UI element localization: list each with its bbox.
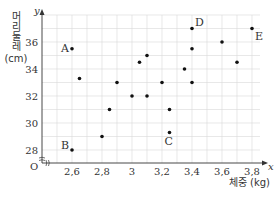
data-point — [160, 81, 164, 85]
y-axis-label-unit: (cm) — [4, 53, 27, 64]
point-label: A — [60, 42, 70, 55]
chart-canvas: 2,62,833,23,43,63,8 2830323436 ABCDE yxO… — [0, 0, 275, 197]
x-tick-label: 3,4 — [184, 166, 200, 177]
data-point — [130, 94, 134, 98]
data-point — [115, 81, 119, 85]
y-tick-label: 30 — [25, 118, 38, 129]
data-point — [168, 131, 172, 135]
y-axis-symbol: y — [33, 5, 40, 16]
x-tick-label: 2,8 — [94, 166, 110, 177]
point-label: B — [61, 139, 69, 152]
data-point — [100, 135, 104, 139]
data-point — [145, 94, 149, 98]
data-point — [250, 27, 254, 31]
axes — [39, 9, 268, 166]
data-point — [190, 27, 194, 31]
y-tick-label: 28 — [25, 145, 38, 156]
data-point — [168, 108, 172, 112]
x-tick-label: 3,2 — [154, 166, 170, 177]
data-point — [138, 60, 142, 64]
point-label: E — [255, 30, 263, 43]
data-point — [190, 81, 194, 85]
point-label: D — [195, 16, 204, 29]
x-axis-label: 체중 (kg) — [229, 177, 270, 188]
x-tick-label: 3,6 — [214, 166, 230, 177]
x-tick-label: 3,8 — [244, 166, 260, 177]
grid-lines — [42, 15, 260, 163]
x-tick-label: 3 — [129, 166, 135, 177]
x-tick-labels: 2,62,833,23,43,63,8 — [64, 166, 260, 177]
point-label: C — [165, 135, 173, 148]
y-axis-label-char: 레 — [12, 41, 21, 52]
data-point — [78, 77, 82, 81]
data-point — [190, 47, 194, 51]
x-tick-label: 2,6 — [64, 166, 80, 177]
origin-label: O — [30, 161, 38, 172]
data-point — [108, 108, 112, 112]
scatter-chart: 2,62,833,23,43,63,8 2830323436 ABCDE yxO… — [0, 0, 275, 197]
data-point — [145, 54, 149, 58]
y-tick-label: 36 — [25, 37, 38, 48]
data-point — [183, 67, 187, 71]
data-point — [70, 47, 74, 51]
x-axis-symbol: x — [268, 161, 274, 172]
data-point — [235, 60, 239, 64]
y-tick-label: 34 — [25, 64, 38, 75]
data-points: ABCDE — [60, 16, 263, 153]
data-point — [70, 148, 74, 152]
data-point — [220, 40, 224, 44]
y-tick-label: 32 — [25, 91, 38, 102]
